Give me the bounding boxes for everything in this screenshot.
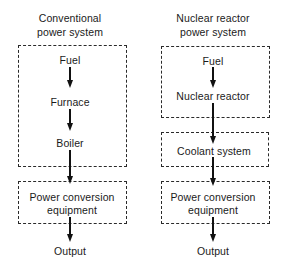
arrow-head-icon — [67, 80, 73, 88]
arrow-head-icon — [210, 136, 216, 144]
right-arrow-fuel-reactor — [212, 67, 214, 81]
nuclear-title-line2: power system — [180, 26, 246, 39]
arrow-head-icon — [210, 234, 216, 242]
right-output-label: Output — [197, 245, 229, 257]
power-system-comparison-diagram: Conventional power system Fuel Furnace B… — [0, 0, 282, 270]
right-arrow-reactor-coolant — [212, 103, 214, 138]
arrow-head-icon — [210, 80, 216, 88]
right-arrow-conversion-output — [212, 217, 214, 235]
right-fuel-label: Fuel — [203, 55, 224, 67]
left-arrow-boiler-conversion — [69, 150, 71, 177]
right-conversion-label-line2: equipment — [188, 204, 238, 216]
left-furnace-label: Furnace — [50, 96, 89, 108]
right-conversion-label-line1: Power conversion — [170, 191, 255, 203]
left-conversion-label-line2: equipment — [47, 204, 97, 216]
left-boiler-label: Boiler — [56, 137, 83, 149]
conventional-title-line1: Conventional — [39, 12, 102, 25]
right-reactor-label: Nuclear reactor — [176, 90, 249, 102]
left-arrow-fuel-furnace — [69, 67, 71, 81]
left-output-label: Output — [54, 245, 86, 257]
left-conversion-label-line1: Power conversion — [29, 191, 114, 203]
arrow-head-icon — [210, 178, 216, 186]
left-arrow-furnace-boiler — [69, 109, 71, 124]
arrow-head-icon — [67, 123, 73, 131]
left-fuel-label: Fuel — [60, 54, 81, 66]
nuclear-title-line1: Nuclear reactor — [176, 12, 249, 25]
right-coolant-label: Coolant system — [177, 145, 251, 157]
left-arrow-conversion-output — [69, 217, 71, 235]
conventional-title-line2: power system — [37, 26, 103, 39]
arrow-head-icon — [67, 176, 73, 184]
right-arrow-coolant-conversion — [212, 157, 214, 179]
arrow-head-icon — [67, 234, 73, 242]
